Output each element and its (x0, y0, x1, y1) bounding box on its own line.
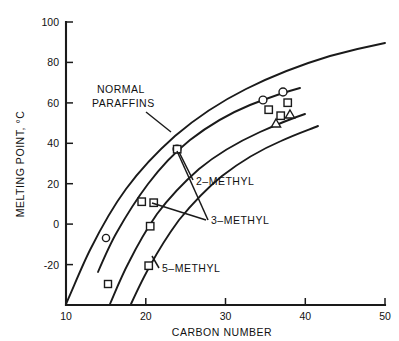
x-axis-title: CARBON NUMBER (172, 326, 273, 338)
leader-line-3-methyl-branch (152, 203, 206, 220)
annotation-group: NORMAL PARAFFINS 2–METHYL 3–METHYL 5–MET… (92, 83, 269, 274)
data-point-marker-circle (259, 96, 267, 104)
y-tick-label-60: 60 (47, 97, 59, 109)
annotation-3-methyl: 3–METHYL (211, 214, 269, 226)
data-point-marker-square (147, 223, 154, 230)
y-tick-label-20: 20 (47, 178, 59, 190)
data-point-marker-square (145, 262, 152, 269)
data-point-marker-square (138, 198, 145, 205)
leader-line-2-methyl (179, 152, 193, 180)
annotation-normal-paraffins-line1: NORMAL (97, 83, 145, 95)
chart-canvas: 100 80 60 40 20 0 -20 10 20 30 40 50 CAR… (0, 0, 399, 341)
data-point-marker-square (105, 281, 112, 288)
annotation-5-methyl: 5–METHYL (162, 262, 220, 274)
data-point-marker-circle (102, 234, 109, 241)
y-tick-label-100: 100 (41, 16, 59, 28)
data-point-marker-square (277, 112, 284, 119)
melting-point-chart: 100 80 60 40 20 0 -20 10 20 30 40 50 CAR… (0, 0, 399, 341)
y-tick-label-80: 80 (47, 56, 59, 68)
x-tick-label-30: 30 (220, 310, 232, 322)
data-point-marker-circle (279, 88, 287, 96)
x-tick-label-10: 10 (60, 310, 72, 322)
data-point-marker-square (150, 199, 157, 206)
annotation-2-methyl: 2–METHYL (196, 175, 254, 187)
y-axis-tick-labels: 100 80 60 40 20 0 -20 (41, 16, 59, 271)
x-tick-label-20: 20 (140, 310, 152, 322)
data-point-marker-square (284, 99, 291, 106)
data-point-marker-triangle (285, 110, 294, 118)
y-tick-label-40: 40 (47, 137, 59, 149)
data-point-marker-square (265, 106, 272, 113)
x-tick-label-50: 50 (379, 310, 391, 322)
y-tick-label-0: 0 (53, 218, 59, 230)
x-axis-tick-labels: 10 20 30 40 50 (60, 310, 391, 322)
annotation-normal-paraffins-line2: PARAFFINS (92, 97, 155, 109)
leader-line-normal-paraffins (146, 112, 171, 132)
x-tick-label-40: 40 (299, 310, 311, 322)
y-tick-label-neg20: -20 (44, 259, 59, 271)
y-axis-title: MELTING POINT, °C (14, 111, 26, 218)
